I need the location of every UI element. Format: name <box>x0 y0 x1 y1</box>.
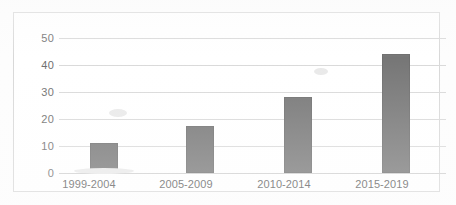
y-axis: 50 40 30 20 10 0 <box>14 38 54 173</box>
bar-2015-2019[interactable] <box>382 54 410 173</box>
y-axis-tick-label: 50 <box>20 33 54 44</box>
chart-plot-frame: 50 40 30 20 10 0 1999-2004 2005-2009 201… <box>13 12 440 192</box>
gridline-0-baseline <box>59 173 446 174</box>
bar-1999-2004[interactable] <box>90 143 118 173</box>
y-axis-tick-label: 40 <box>20 60 54 71</box>
y-axis-tick-label: 10 <box>20 141 54 152</box>
x-axis-tick-label: 2005-2009 <box>142 179 230 190</box>
plot-area <box>59 38 446 173</box>
y-axis-tick-label: 0 <box>20 168 54 179</box>
x-axis-tick-label: 2010-2014 <box>240 179 328 190</box>
x-axis-tick-label: 2015-2019 <box>338 179 426 190</box>
y-axis-tick-label: 30 <box>20 87 54 98</box>
bar-2010-2014[interactable] <box>284 97 312 173</box>
chart-container: 50 40 30 20 10 0 1999-2004 2005-2009 201… <box>0 0 456 205</box>
y-axis-tick-label: 20 <box>20 114 54 125</box>
bar-2005-2009[interactable] <box>186 126 214 173</box>
x-axis-tick-label: 1999-2004 <box>45 179 133 190</box>
gridline-50 <box>59 38 446 39</box>
